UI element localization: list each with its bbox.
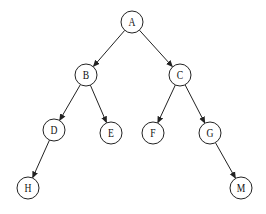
edge-a-b <box>94 30 125 66</box>
node-label-b: B <box>77 64 95 86</box>
edge-b-d <box>60 85 81 121</box>
edge-c-g <box>185 85 205 123</box>
edge-c-f <box>158 85 176 123</box>
node-label-e: E <box>102 122 120 144</box>
edge-g-m <box>215 143 235 178</box>
node-label-m: M <box>232 177 250 199</box>
node-label-c: C <box>171 64 189 86</box>
edge-b-e <box>90 85 106 122</box>
edge-d-h <box>33 140 50 177</box>
node-label-f: F <box>144 122 162 144</box>
node-label-d: D <box>45 119 63 141</box>
node-label-h: H <box>19 177 37 199</box>
node-label-a: A <box>123 11 141 33</box>
edges-group <box>33 30 236 178</box>
nodes-group <box>17 11 252 199</box>
node-label-g: G <box>201 122 219 144</box>
edge-a-c <box>139 30 172 66</box>
tree-diagram: ABCDEFGHM <box>0 0 266 214</box>
